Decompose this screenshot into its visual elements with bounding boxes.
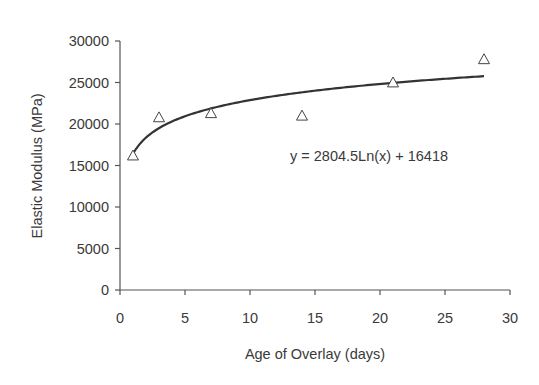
x-tick-label: 25 — [437, 310, 453, 326]
x-tick-label: 5 — [181, 310, 189, 326]
trendline-equation: y = 2804.5Ln(x) + 16418 — [290, 148, 448, 164]
data-points — [128, 54, 490, 160]
triangle-marker — [128, 150, 139, 160]
trendline — [133, 76, 484, 154]
x-tick-label: 20 — [372, 310, 388, 326]
y-tick-label: 10000 — [69, 199, 109, 215]
triangle-marker — [297, 110, 308, 120]
x-axis: 051015202530 — [116, 290, 518, 326]
y-tick-label: 0 — [101, 282, 109, 298]
x-tick-label: 10 — [242, 310, 258, 326]
y-tick-label: 25000 — [69, 75, 109, 91]
x-axis-label: Age of Overlay (days) — [245, 346, 385, 362]
x-tick-label: 0 — [116, 310, 124, 326]
triangle-marker — [154, 112, 165, 122]
x-tick-label: 30 — [502, 310, 518, 326]
triangle-marker — [479, 54, 490, 64]
x-tick-label: 15 — [307, 310, 323, 326]
y-tick-label: 30000 — [69, 33, 109, 49]
y-tick-label: 5000 — [77, 241, 109, 257]
y-tick-label: 15000 — [69, 158, 109, 174]
y-tick-label: 20000 — [69, 116, 109, 132]
y-axis-label: Elastic Modulus (MPa) — [29, 93, 45, 238]
y-axis: 050001000015000200002500030000 — [69, 33, 120, 298]
chart: 050001000015000200002500030000 051015202… — [0, 0, 539, 385]
